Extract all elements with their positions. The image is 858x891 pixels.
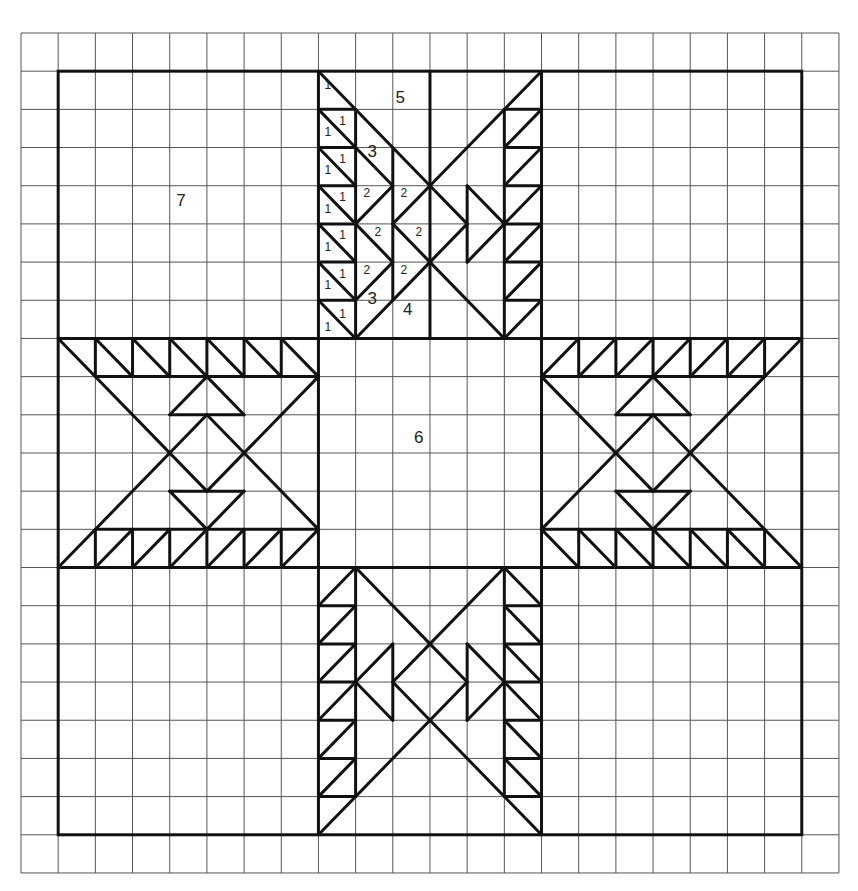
piece-label-1: 1 [339,190,346,204]
piece-label-3: 3 [368,142,377,161]
pattern-seam-line [727,529,764,567]
pattern-seam-line [690,529,727,567]
pattern-seam-line [504,262,541,300]
pattern-seam-line [281,338,318,376]
pattern-seam-line [170,338,207,376]
pattern-seam-line [133,338,170,376]
pattern-seam-line [170,529,207,567]
pattern-seam-line [430,186,467,224]
pattern-seam-line [207,491,244,529]
pattern-seam-line [133,529,170,567]
pattern-seam-line [616,529,653,567]
piece-label-4: 4 [403,300,412,319]
pattern-seam-line [95,338,132,376]
piece-label-5: 5 [396,88,405,107]
pattern-seam-line [690,338,727,376]
piece-label-2: 2 [401,263,408,277]
pattern-seam-line [393,682,430,720]
pattern-seam-line [616,338,653,376]
pattern-seam-line [467,224,504,262]
pattern-seam-line [430,644,467,682]
piece-label-2: 2 [415,225,422,239]
pattern-seam-line [318,720,355,758]
pattern-seam-line [244,338,281,376]
piece-label-1: 1 [339,152,346,166]
pattern-seam-line [504,568,541,606]
pattern-seam-line [579,529,616,567]
piece-label-1: 1 [324,125,331,139]
piece-label-1: 1 [339,114,346,128]
pattern-seam-line [430,682,467,720]
pattern-seam-line [504,186,541,224]
piece-label-1: 1 [339,307,346,321]
pattern-seam-line [616,377,653,415]
pattern-seam-line [244,529,281,567]
pattern-seam-line [504,224,541,262]
pattern-seam-line [542,338,579,376]
pattern-seam-line [653,491,690,529]
piece-label-1: 1 [324,240,331,254]
pattern-seam-line [170,491,207,529]
pattern-seam-line [542,529,579,567]
pattern-seam-line [504,300,541,338]
piece-label-1: 1 [324,202,331,216]
piece-label-7: 7 [176,191,185,210]
pattern-seam-line [207,377,244,415]
pattern-seam-line [207,529,244,567]
pattern-seam-line [393,644,430,682]
pattern-seam-line [318,682,355,720]
pattern-seam-line [579,338,616,376]
pattern-seam-line [653,529,690,567]
pattern-seam-line [653,377,690,415]
pattern-seam-line [430,224,467,262]
piece-label-3: 3 [368,289,377,308]
pattern-seam-line [318,568,355,606]
pattern-seam-line [504,109,541,147]
piece-label-1: 1 [339,228,346,242]
piece-label-1: 1 [324,163,331,177]
pattern-seam-line [467,682,504,720]
pattern-seam-line [318,758,355,796]
pattern-seam-line [95,529,132,567]
piece-label-2: 2 [363,263,370,277]
piece-label-2: 2 [375,225,382,239]
pattern-seam-line [393,224,430,262]
pattern-seam-line [727,338,764,376]
pattern-seam-line [504,644,541,682]
pattern-seam-line [356,682,393,720]
piece-label-2: 2 [401,186,408,200]
pattern-seam-line [318,644,355,682]
piece-label-1: 1 [324,278,331,292]
pattern-seam-line [653,338,690,376]
pattern-seam-line [170,377,207,415]
piece-label-1: 1 [339,267,346,281]
pattern-seam-line [504,606,541,644]
pattern-seam-line [356,186,393,224]
pattern-seam-line [504,148,541,186]
pattern-seam-line [504,682,541,720]
pattern-seam-line [281,529,318,567]
pattern-seam-line [318,606,355,644]
pattern-seam-line [616,491,653,529]
piece-label-2: 2 [363,186,370,200]
quilt-pattern-diagram: 7653342222221111111111111 [0,0,858,891]
pattern-seam-line [504,758,541,796]
pattern-seam-line [467,186,504,224]
pattern-seam-line [467,644,504,682]
piece-label-6: 6 [414,428,423,447]
pattern-seam-line [356,644,393,682]
pattern-seam-line [504,720,541,758]
pattern-seam-line [393,186,430,224]
piece-label-1: 1 [324,78,331,92]
piece-label-1: 1 [324,320,331,334]
pattern-seam-line [207,338,244,376]
